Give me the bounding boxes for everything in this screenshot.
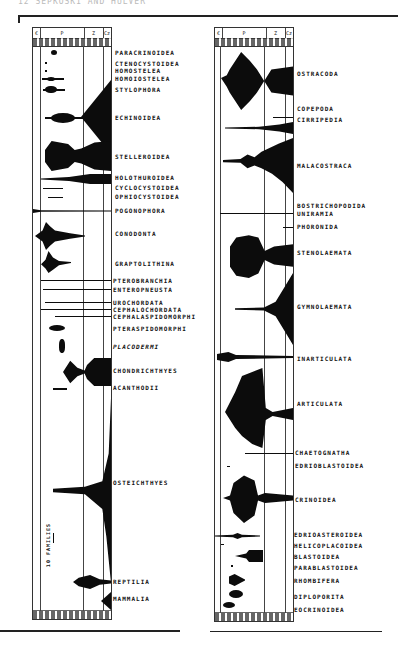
taxon-label: CONODONTA (115, 230, 157, 237)
spindle-rhombifera (229, 574, 245, 586)
taxon-label: CEPHALASPIDOMORPHI (113, 313, 196, 320)
right-spindle-panel: € P Z Cz (214, 27, 294, 622)
taxon-label: GYMNOLAEMATA (297, 303, 352, 310)
taxon-label: ENTEROPNEUSTA (113, 286, 173, 293)
spindle-acanthodii (53, 388, 67, 390)
spindle-stelleroidea (45, 141, 111, 171)
top-rule-tick (18, 15, 20, 23)
taxon-label: ARTICULATA (297, 400, 343, 407)
taxon-label: DIPLOPORITA (294, 593, 345, 600)
spindle-cephalochordata (41, 309, 111, 310)
taxon-label: PARACRINOIDEA (115, 49, 175, 56)
spindle-stylophora-body (45, 86, 57, 93)
taxon-label: GRAPTOLITHINA (115, 260, 175, 267)
spindle-edrioblastoidea (227, 466, 230, 467)
spindle-parablastoidea (231, 565, 233, 567)
spindle-stenolaemata (230, 233, 293, 278)
taxon-label: PARABLASTOIDEA (294, 564, 359, 571)
period-strip (215, 38, 293, 46)
taxon-label: HOLOTHUROIDEA (115, 174, 175, 181)
time-scale-footer (33, 610, 111, 619)
time-scale-header: € P Z Cz (33, 28, 111, 47)
era-cell: Z (266, 28, 286, 38)
taxon-label: INARTICULATA (297, 355, 352, 362)
taxon-label: CRINOIDEA (295, 496, 337, 503)
scale-bar (53, 533, 54, 543)
taxon-label: MALACOSTRACA (297, 162, 352, 169)
bottom-rule-right (210, 631, 382, 632)
spindle-paracrinoidea (51, 50, 57, 55)
time-scale-header: € P Z Cz (215, 28, 293, 47)
taxon-label: STENOLAEMATA (297, 249, 352, 256)
taxon-label: MAMMALIA (113, 595, 150, 602)
taxon-label: HOMOIOSTELEA (115, 75, 170, 82)
bottom-rule (0, 630, 180, 632)
taxon-label: EDRIOBLASTOIDEA (295, 462, 364, 469)
taxon-label: BLASTOIDEA (294, 553, 340, 560)
taxon-label: UNIRAMIA (297, 210, 334, 217)
taxon-label: STYLOPHORA (115, 86, 161, 93)
taxon-label: OSTRACODA (297, 70, 339, 77)
spindle-ctenocystoidea (45, 62, 47, 64)
spindle-crinoidea (223, 473, 293, 523)
taxon-label: CHAETOGNATHA (295, 449, 350, 456)
taxon-label: RHOMBIFERA (294, 577, 340, 584)
spindle-holothuroidea (41, 174, 111, 184)
taxon-label: PTERASPIDOMORPHI (113, 325, 187, 332)
taxon-label: ECHINOIDEA (115, 114, 161, 121)
taxon-label: UROCHORDATA (113, 299, 164, 306)
spindle-cephalaspidomorphi (55, 316, 111, 317)
taxon-label: REPTILIA (113, 578, 150, 585)
taxon-label: CHONDRICHTHYES (113, 367, 178, 374)
top-rule (18, 15, 398, 17)
taxon-label: HOMOSTELEA (115, 67, 161, 74)
period-strip (33, 38, 111, 46)
taxon-label: EDRIOASTEROIDEA (294, 531, 363, 538)
era-cell: P (40, 28, 85, 38)
taxon-label: POGONOPHORA (115, 207, 166, 214)
spindle-pteraspidomorphi (49, 325, 65, 331)
spindle-urochordata (45, 302, 111, 303)
spindle-echinoidea-early (51, 113, 75, 123)
spindle-articulata (225, 368, 293, 448)
taxon-label: EOCRINOIDEA (294, 606, 345, 613)
taxon-label: HELICOPLACOIDEA (294, 542, 363, 549)
spindle-edrioasteroidea (215, 533, 260, 539)
scale-bar-label: 10 FAMILIES (45, 523, 51, 567)
taxon-label: ACANTHODII (113, 384, 159, 391)
taxon-label: PHORONIDA (297, 223, 339, 230)
boundary-line (220, 46, 221, 613)
boundary-line (83, 46, 84, 611)
spindle-helicoplacoidea (221, 544, 224, 545)
taxon-label: CEPHALOCHORDATA (113, 306, 182, 313)
spindle-phoronida (283, 227, 293, 228)
taxon-label: COPEPODA (297, 105, 334, 112)
spindle-blastoidea (235, 550, 263, 562)
spindle-bostrichopodida-uniramia (220, 213, 293, 214)
boundary-line (40, 46, 41, 611)
spindle-reptilia (73, 575, 111, 589)
spindle-ophiocystoidea (48, 197, 63, 198)
taxon-label: PTEROBRANCHIA (113, 277, 173, 284)
spindle-conodonta (35, 222, 85, 250)
time-scale-footer (215, 612, 293, 621)
taxon-label: BOSTRICHOPODIDA (297, 202, 366, 209)
spindle-cyclocystoidea (43, 188, 63, 189)
spindle-malacostraca (223, 138, 293, 193)
spindle-cirripedia (225, 122, 293, 134)
spindle-pterobranchia (41, 280, 111, 281)
taxon-label: CYCLOCYSTOIDEA (115, 184, 180, 191)
spindle-graptolithina (41, 251, 71, 273)
era-cell: Z (84, 28, 104, 38)
era-cell: Cz (103, 28, 111, 38)
spindle-chondrichthyes (63, 358, 111, 386)
taxon-label: STELLEROIDEA (115, 153, 170, 160)
taxon-label: CIRRIPEDIA (297, 116, 343, 123)
spindle-homostelea (45, 70, 47, 72)
spindle-ostracoda (221, 52, 293, 110)
spindle-eocrinoidea (223, 602, 235, 608)
spindle-copepoda (273, 117, 293, 118)
era-cell: P (222, 28, 267, 38)
spindle-diplोporita (229, 590, 243, 598)
taxon-label: PLACODERMI (113, 343, 159, 350)
